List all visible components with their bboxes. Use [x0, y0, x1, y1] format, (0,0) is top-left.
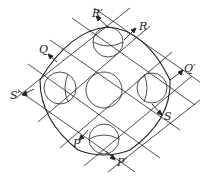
label-q: Q: [39, 44, 48, 55]
lens-arc: [65, 74, 68, 102]
label-s-prime: S′: [10, 90, 20, 101]
right-circle: [137, 73, 167, 103]
label-p: P: [73, 138, 80, 149]
left-circle: [44, 72, 76, 104]
label-r: R: [139, 21, 147, 32]
lattice-line: [50, 40, 180, 130]
lattice-line: [16, 8, 130, 98]
lattice-diagram: [0, 0, 208, 180]
lens-arc: [93, 42, 123, 46]
lattice-line: [84, 76, 192, 166]
diagram-canvas: R′ R Q Q′ S′ S P P′: [0, 0, 208, 180]
lattice-line: [60, 52, 172, 148]
arrow-head-icon: [178, 70, 183, 75]
label-p-prime: P′: [117, 157, 127, 168]
label-r-prime: R′: [92, 8, 103, 19]
lens-arc: [89, 135, 119, 139]
lattice-line: [38, 26, 150, 122]
lens-arc: [144, 74, 147, 102]
label-q-prime: Q′: [184, 63, 196, 74]
top-circle: [93, 27, 123, 57]
label-s: S: [164, 111, 172, 122]
